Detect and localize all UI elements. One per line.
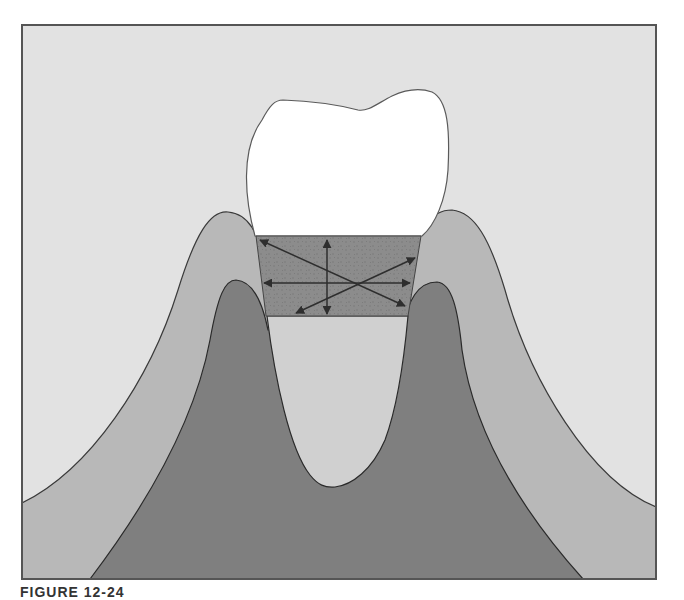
tooth-crown [246,90,448,236]
figure-caption: FIGURE 12-24 [20,584,125,600]
